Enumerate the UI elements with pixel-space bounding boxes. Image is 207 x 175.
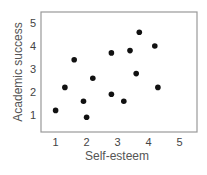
y-tick-label: 2 bbox=[30, 86, 36, 98]
y-tick-label: 3 bbox=[30, 63, 36, 75]
x-tick-label: 1 bbox=[53, 136, 59, 148]
data-point bbox=[109, 50, 115, 56]
y-tick-label: 4 bbox=[30, 40, 36, 52]
data-point bbox=[137, 29, 143, 35]
data-point bbox=[121, 98, 127, 104]
data-point bbox=[127, 48, 133, 54]
data-point bbox=[84, 115, 90, 121]
data-point bbox=[53, 108, 59, 114]
data-point bbox=[133, 71, 139, 77]
scatter-chart: 12345 12345 Self-esteem Academic success bbox=[0, 0, 207, 175]
data-point bbox=[155, 85, 161, 91]
y-axis-ticks: 12345 bbox=[30, 17, 36, 121]
data-point bbox=[71, 57, 77, 63]
x-axis-label: Self-esteem bbox=[85, 149, 149, 163]
data-point bbox=[62, 85, 68, 91]
data-point bbox=[109, 92, 115, 98]
y-axis-label: Academic success bbox=[11, 22, 25, 121]
x-tick-label: 5 bbox=[177, 136, 183, 148]
x-axis-ticks: 12345 bbox=[53, 136, 183, 148]
y-tick-label: 5 bbox=[30, 17, 36, 29]
x-tick-label: 3 bbox=[115, 136, 121, 148]
x-tick-label: 2 bbox=[84, 136, 90, 148]
y-tick-label: 1 bbox=[30, 109, 36, 121]
data-point bbox=[90, 75, 96, 81]
x-tick-label: 4 bbox=[146, 136, 152, 148]
plot-frame bbox=[41, 12, 197, 132]
data-point bbox=[81, 98, 87, 104]
data-point bbox=[152, 43, 158, 49]
data-points bbox=[53, 29, 161, 120]
